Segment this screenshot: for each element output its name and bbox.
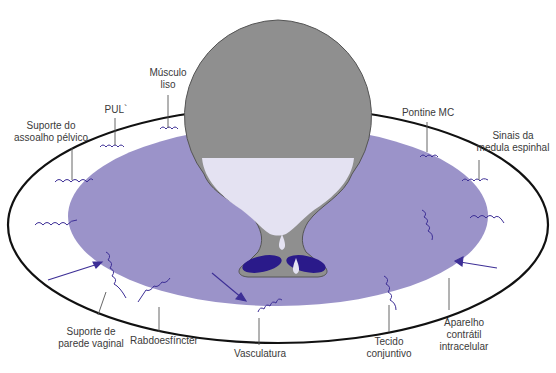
label-contractile-apparatus: Aparelho contrátil intracelular bbox=[426, 317, 502, 353]
label-connective-tissue: Tecido conjuntivo bbox=[356, 336, 422, 360]
label-rhabdosphincter: Rabdoesfíncter bbox=[124, 335, 204, 347]
label-pelvic-floor-support: Suporte do assoalho pélvico bbox=[6, 120, 96, 144]
label-smooth-muscle: Músculo liso bbox=[140, 67, 196, 91]
label-spinal-signals: Sinais da medula espinhal bbox=[470, 130, 556, 154]
label-pul: PUL` bbox=[98, 104, 134, 116]
label-vasculature: Vasculatura bbox=[222, 348, 298, 360]
label-pontine-mc: Pontine MC bbox=[396, 107, 460, 119]
label-vaginal-wall-support: Suporte de parede vaginal bbox=[46, 326, 136, 350]
